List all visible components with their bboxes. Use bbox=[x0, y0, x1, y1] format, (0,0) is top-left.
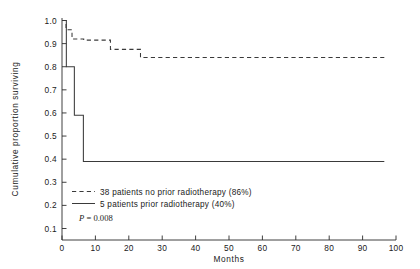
x-tick-label: 20 bbox=[124, 243, 134, 253]
x-axis-ticks bbox=[62, 236, 396, 241]
legend: 38 patients no prior radiotherapy (86%)5… bbox=[72, 188, 252, 209]
y-tick-label: 0.6 bbox=[45, 108, 58, 118]
x-tick-label: 50 bbox=[224, 243, 234, 253]
x-axis-tick-labels: 0102030405060708090100 bbox=[60, 243, 404, 253]
kaplan-meier-plot: 0.10.20.30.40.50.60.70.80.91.0 010203040… bbox=[0, 0, 420, 269]
y-tick-label: 0.3 bbox=[45, 177, 58, 187]
survival-curve-no-prior-radiotherapy bbox=[62, 21, 384, 58]
p-value-value: = 0.008 bbox=[84, 213, 112, 223]
p-value-annotation: P = 0.008 bbox=[78, 213, 113, 223]
x-tick-label: 70 bbox=[291, 243, 301, 253]
x-tick-label: 60 bbox=[257, 243, 267, 253]
x-axis-title: Months bbox=[214, 254, 245, 264]
y-tick-label: 0.8 bbox=[45, 62, 58, 72]
x-tick-label: 30 bbox=[157, 243, 167, 253]
y-tick-label: 0.7 bbox=[45, 85, 58, 95]
y-tick-label: 0.5 bbox=[45, 131, 58, 141]
y-tick-label: 0.9 bbox=[45, 39, 58, 49]
x-tick-label: 90 bbox=[358, 243, 368, 253]
survival-curves bbox=[62, 21, 384, 162]
x-tick-label: 0 bbox=[60, 243, 65, 253]
y-tick-label: 0.2 bbox=[45, 200, 58, 210]
x-tick-label: 10 bbox=[90, 243, 100, 253]
legend-label: 38 patients no prior radiotherapy (86%) bbox=[100, 188, 252, 197]
y-tick-label: 0.1 bbox=[45, 224, 58, 234]
x-tick-label: 100 bbox=[389, 243, 404, 253]
survival-curve-figure: 0.10.20.30.40.50.60.70.80.91.0 010203040… bbox=[0, 0, 420, 269]
y-tick-label: 0.4 bbox=[45, 154, 58, 164]
legend-label: 5 patients prior radiotherapy (40%) bbox=[100, 200, 235, 209]
y-axis-title: Cumulative proportion surviving bbox=[10, 62, 20, 197]
x-tick-label: 80 bbox=[324, 243, 334, 253]
y-axis-tick-labels: 0.10.20.30.40.50.60.70.80.91.0 bbox=[45, 16, 58, 234]
y-tick-label: 1.0 bbox=[45, 16, 58, 26]
x-tick-label: 40 bbox=[191, 243, 201, 253]
